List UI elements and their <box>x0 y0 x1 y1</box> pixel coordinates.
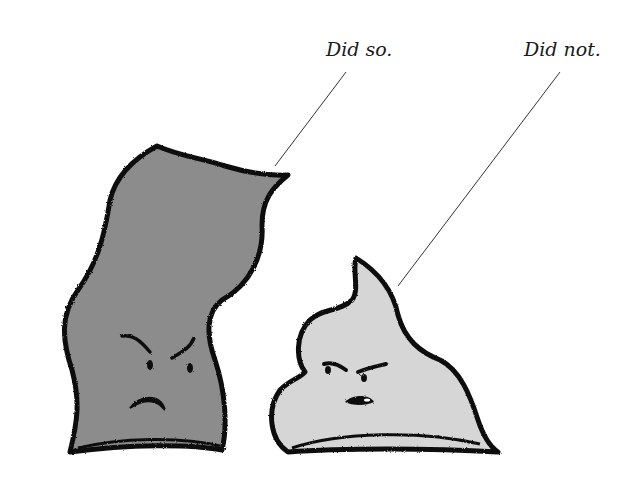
pointer-line-left <box>275 72 346 166</box>
pointer-line-right <box>398 72 560 286</box>
tall-dark-character <box>64 146 288 452</box>
comic-panel: Did so. Did not. <box>0 0 633 487</box>
illustration <box>0 0 633 487</box>
short-light-character <box>272 258 498 452</box>
